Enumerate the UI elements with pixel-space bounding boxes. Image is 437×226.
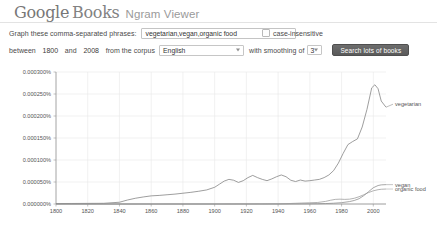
case-insensitive-label: case-insensitive [273, 30, 323, 37]
y-axis-label: 0.000300% [23, 69, 51, 75]
y-axis-label: 0.000250% [23, 91, 51, 97]
x-axis-label: 1860 [145, 208, 157, 214]
phrases-label: Graph these comma-separated phrases: [9, 30, 136, 37]
search-button[interactable]: Search lots of books [332, 44, 409, 56]
query-row: Graph these comma-separated phrases: [9, 28, 296, 39]
chevron-down-icon [314, 49, 318, 52]
series-line-vegetarian[interactable] [56, 85, 386, 204]
x-axis-label: 1880 [177, 208, 189, 214]
end-year-input[interactable] [82, 46, 101, 55]
google-books-logo[interactable]: GoogleBooks [14, 3, 120, 22]
page-title: Ngram Viewer [126, 8, 200, 20]
y-axis-label: 0.000150% [23, 135, 51, 141]
y-axis-label: 0.000200% [23, 113, 51, 119]
x-axis-label: 1820 [82, 208, 94, 214]
smoothing-label: with smoothing of [249, 47, 304, 54]
series-line-organic-food[interactable] [56, 189, 386, 204]
logo-google-text: Google [14, 3, 69, 22]
chevron-down-icon [236, 49, 240, 52]
x-axis-label: 1920 [240, 208, 252, 214]
logo-books-text: Books [72, 3, 119, 22]
x-axis-label: 1800 [50, 208, 62, 214]
header-divider [0, 22, 437, 23]
and-label: and [65, 47, 77, 54]
smoothing-select[interactable]: 3 [307, 45, 322, 55]
series-label-vegetarian: vegetarian [395, 101, 421, 107]
corpus-select-value: English [163, 47, 185, 54]
ngram-viewer-page: GoogleBooks Ngram Viewer Graph these com… [0, 0, 437, 226]
series-line-vegan[interactable] [56, 185, 386, 204]
series-leader-vegetarian [386, 104, 393, 107]
corpus-select[interactable]: English [159, 45, 244, 56]
x-axis-label: 1960 [304, 208, 316, 214]
case-insensitive-control[interactable]: case-insensitive [262, 29, 323, 37]
ngram-chart[interactable]: 0.000000%0.000050%0.000100%0.000150%0.00… [0, 62, 437, 226]
x-axis-label: 1900 [208, 208, 220, 214]
x-axis-label: 1840 [113, 208, 125, 214]
x-axis-label: 1980 [335, 208, 347, 214]
options-row: between and from the corpus English with… [9, 44, 409, 56]
corpus-label: from the corpus [106, 47, 155, 54]
between-label: between [9, 47, 36, 54]
x-axis-label: 1940 [272, 208, 284, 214]
y-axis-label: 0.000100% [23, 157, 51, 163]
x-axis-label: 2000 [367, 208, 379, 214]
start-year-input[interactable] [41, 46, 60, 55]
y-axis-label: 0.000050% [23, 179, 51, 185]
page-header: GoogleBooks Ngram Viewer [14, 3, 199, 22]
ngram-chart-svg: 0.000000%0.000050%0.000100%0.000150%0.00… [0, 62, 437, 226]
y-axis-label: 0.000000% [23, 201, 51, 207]
series-label-organic-food: organic food [395, 186, 426, 192]
case-insensitive-checkbox[interactable] [262, 29, 270, 37]
